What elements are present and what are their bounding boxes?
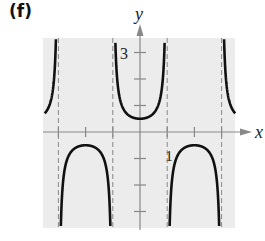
plot-background: [43, 38, 235, 228]
y-axis-label: y: [133, 4, 143, 24]
x-axis-label: x: [254, 122, 263, 142]
x-axis-arrow-icon: [240, 129, 252, 136]
y-axis-arrow-icon: [137, 24, 144, 36]
x-tick-label: 1: [165, 148, 173, 164]
y-tick-label: 3: [120, 45, 128, 62]
secant-graph: 31xy: [0, 0, 265, 241]
